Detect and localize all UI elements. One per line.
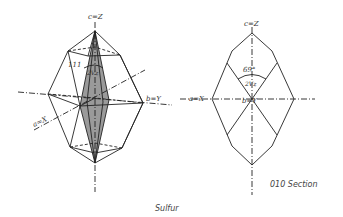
- section-angle-value: 69°: [243, 66, 255, 74]
- crystal-b-axis-label: b=Y: [146, 95, 162, 103]
- crystal-a-axis-label: a=X: [31, 115, 49, 129]
- face-111-label: 111: [68, 61, 81, 69]
- crystal-angle-label: 2Vz: [86, 69, 99, 76]
- crystal-c-axis-label: c=Z: [88, 13, 103, 21]
- section-angle-label: 2Vz: [244, 80, 257, 87]
- section-010: [180, 27, 315, 195]
- section-b-axis-label: b=Y: [242, 97, 258, 105]
- sulfur-crystal-diagram: c=Z b=Y a=X 111 2Vz c=Z a=X b=Y 69° 2Vz …: [0, 0, 343, 217]
- section-caption: 010 Section: [270, 180, 318, 189]
- crystal-3d: [18, 22, 172, 192]
- section-c-axis-label: c=Z: [244, 20, 259, 28]
- section-a-axis-label: a=X: [189, 95, 205, 103]
- figure-caption: Sulfur: [155, 204, 179, 213]
